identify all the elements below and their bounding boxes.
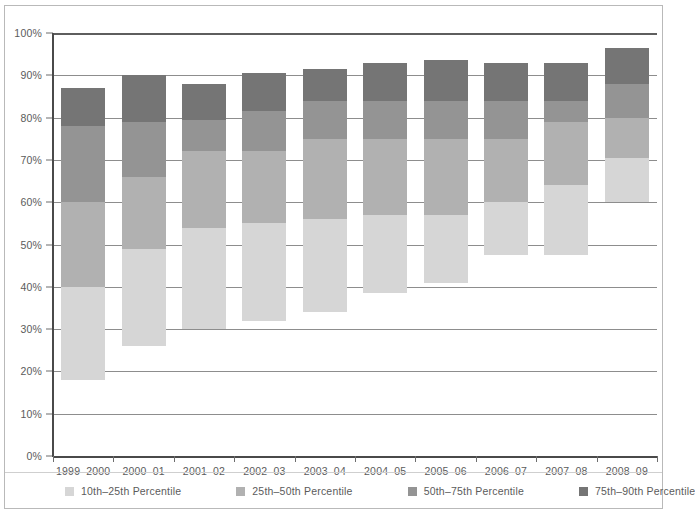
bar-group[interactable]: [182, 33, 226, 456]
bar-segment[interactable]: [605, 158, 649, 202]
x-tick-mark: [476, 456, 477, 462]
bar-segment[interactable]: [484, 202, 528, 255]
y-tick-label: 80%: [20, 112, 42, 124]
bar-segment[interactable]: [424, 215, 468, 283]
bar-segment[interactable]: [122, 249, 166, 346]
x-tick-mark: [355, 456, 356, 462]
bar-group[interactable]: [242, 33, 286, 456]
bar-segment[interactable]: [122, 122, 166, 177]
legend-label: 10th–25th Percentile: [81, 485, 181, 497]
x-tick-mark: [234, 456, 235, 462]
bar-segment[interactable]: [242, 151, 286, 223]
bar-segment[interactable]: [242, 111, 286, 151]
y-tick-label: 50%: [20, 239, 42, 251]
bar-group[interactable]: [605, 33, 649, 456]
y-tick-label: 60%: [20, 196, 42, 208]
bar-segment[interactable]: [363, 63, 407, 101]
bar-segment[interactable]: [303, 139, 347, 219]
x-tick-mark: [295, 456, 296, 462]
bar-segment[interactable]: [242, 223, 286, 320]
legend-item[interactable]: 10th–25th Percentile: [65, 485, 181, 497]
bar-group[interactable]: [363, 33, 407, 456]
y-tick-label: 90%: [20, 69, 42, 81]
chart-legend: 10th–25th Percentile25th–50th Percentile…: [5, 473, 662, 509]
bar-segment[interactable]: [363, 101, 407, 139]
y-tick-label: 70%: [20, 154, 42, 166]
x-tick-mark: [657, 456, 658, 462]
bar-group[interactable]: [303, 33, 347, 456]
bar-segment[interactable]: [544, 122, 588, 185]
legend-item[interactable]: 25th–50th Percentile: [236, 485, 352, 497]
bar-segment[interactable]: [484, 63, 528, 101]
legend-item[interactable]: 75th–90th Percentile: [579, 485, 695, 497]
plot-area: [53, 33, 657, 456]
x-tick-mark: [597, 456, 598, 462]
y-axis-line: [52, 33, 54, 457]
bar-segment[interactable]: [122, 177, 166, 249]
legend-label: 75th–90th Percentile: [595, 485, 695, 497]
x-tick-mark: [536, 456, 537, 462]
bar-segment[interactable]: [303, 219, 347, 312]
y-tick-label: 0%: [26, 450, 42, 462]
legend-swatch-icon: [236, 487, 245, 496]
bar-segment[interactable]: [424, 60, 468, 100]
bar-group[interactable]: [544, 33, 588, 456]
legend-item[interactable]: 50th–75th Percentile: [408, 485, 524, 497]
bar-group[interactable]: [484, 33, 528, 456]
bar-group[interactable]: [424, 33, 468, 456]
legend-swatch-icon: [408, 487, 417, 496]
bar-group[interactable]: [122, 33, 166, 456]
chart-frame: 0%10%20%30%40%50%60%70%80%90%100% 1999–2…: [4, 5, 663, 509]
bar-segment[interactable]: [484, 101, 528, 139]
x-tick-mark: [415, 456, 416, 462]
bar-segment[interactable]: [182, 228, 226, 330]
bar-segment[interactable]: [424, 101, 468, 139]
bar-segment[interactable]: [424, 139, 468, 215]
x-tick-mark: [174, 456, 175, 462]
bar-segment[interactable]: [544, 185, 588, 255]
bar-segment[interactable]: [363, 139, 407, 215]
bar-segment[interactable]: [484, 139, 528, 202]
x-tick-mark: [113, 456, 114, 462]
legend-swatch-icon: [579, 487, 588, 496]
bar-segment[interactable]: [544, 101, 588, 122]
y-tick-label: 10%: [20, 408, 42, 420]
bar-segment[interactable]: [61, 126, 105, 202]
bar-segment[interactable]: [61, 88, 105, 126]
bar-segment[interactable]: [122, 75, 166, 122]
bar-segment[interactable]: [182, 151, 226, 227]
bar-segment[interactable]: [61, 202, 105, 287]
bar-segment[interactable]: [605, 48, 649, 84]
y-tick-label: 30%: [20, 323, 42, 335]
bar-segment[interactable]: [61, 287, 105, 380]
bar-segment[interactable]: [544, 63, 588, 101]
x-tick-mark: [53, 456, 54, 462]
legend-swatch-icon: [65, 487, 74, 496]
bars-layer: [53, 33, 657, 456]
bar-segment[interactable]: [363, 215, 407, 293]
y-tick-label: 20%: [20, 365, 42, 377]
bar-segment[interactable]: [303, 69, 347, 101]
bar-segment[interactable]: [605, 84, 649, 118]
bar-segment[interactable]: [242, 73, 286, 111]
legend-label: 25th–50th Percentile: [252, 485, 352, 497]
bar-segment[interactable]: [182, 120, 226, 152]
y-tick-label: 100%: [14, 27, 42, 39]
bar-segment[interactable]: [303, 101, 347, 139]
bar-segment[interactable]: [182, 84, 226, 120]
legend-label: 50th–75th Percentile: [424, 485, 524, 497]
y-tick-label: 40%: [20, 281, 42, 293]
bar-group[interactable]: [61, 33, 105, 456]
bar-segment[interactable]: [605, 118, 649, 158]
y-axis: 0%10%20%30%40%50%60%70%80%90%100%: [5, 6, 53, 486]
